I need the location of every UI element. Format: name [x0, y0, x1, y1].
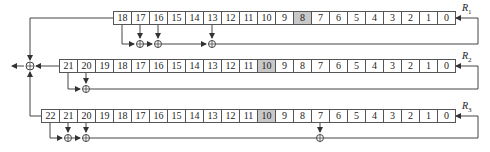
register-cell: 7 — [311, 11, 330, 25]
register-cell: 18 — [113, 11, 132, 25]
register-cell: 16 — [149, 109, 168, 123]
register-label-r1: R1 — [462, 2, 472, 16]
register-cell: 4 — [365, 59, 384, 73]
register-cell: 21 — [59, 59, 78, 73]
register-cell: 5 — [347, 109, 366, 123]
register-cell: 6 — [329, 59, 348, 73]
register-cell: 18 — [113, 109, 132, 123]
register-cell: 18 — [113, 59, 132, 73]
register-cell: 15 — [167, 109, 186, 123]
register-cell: 13 — [203, 11, 222, 25]
register-cell: 3 — [383, 109, 402, 123]
register-cell: 2 — [401, 59, 420, 73]
register-cell: 14 — [185, 11, 204, 25]
register-label-r2: R2 — [462, 50, 472, 64]
register-cell: 10 — [257, 109, 276, 123]
register-cell: 13 — [203, 59, 222, 73]
lfsr-diagram: R1 R2 R3 1817161514131211109876543210212… — [0, 0, 490, 152]
register-cell: 14 — [185, 59, 204, 73]
register-cell: 21 — [59, 109, 78, 123]
register-cell: 20 — [77, 59, 96, 73]
register-cell: 19 — [95, 59, 114, 73]
register-cell: 11 — [239, 11, 258, 25]
register-cell: 16 — [149, 11, 168, 25]
register-cell: 17 — [131, 11, 150, 25]
register-cell: 0 — [437, 109, 456, 123]
register-cell: 6 — [329, 109, 348, 123]
register-cell: 9 — [275, 59, 294, 73]
register-cell: 22 — [41, 109, 60, 123]
register-cell: 6 — [329, 11, 348, 25]
register-cell: 4 — [365, 11, 384, 25]
register-cell: 12 — [221, 11, 240, 25]
register-cell: 2 — [401, 109, 420, 123]
register-cell: 3 — [383, 11, 402, 25]
xor-gates — [26, 41, 324, 142]
register-cell: 4 — [365, 109, 384, 123]
register-cell: 11 — [239, 59, 258, 73]
register-cell: 3 — [383, 59, 402, 73]
register-cell: 7 — [311, 109, 330, 123]
register-cell: 15 — [167, 11, 186, 25]
register-cell: 5 — [347, 59, 366, 73]
register-cell: 0 — [437, 11, 456, 25]
register-cell: 2 — [401, 11, 420, 25]
register-cell: 15 — [167, 59, 186, 73]
register-cell: 1 — [419, 11, 438, 25]
register-cell: 8 — [293, 11, 312, 25]
register-cell: 9 — [275, 11, 294, 25]
register-cell: 10 — [257, 59, 276, 73]
register-cell: 1 — [419, 109, 438, 123]
register-cell: 19 — [95, 109, 114, 123]
register-cell: 11 — [239, 109, 258, 123]
register-label-r3: R3 — [462, 100, 472, 114]
register-cell: 9 — [275, 109, 294, 123]
register-cell: 17 — [131, 109, 150, 123]
register-cell: 14 — [185, 109, 204, 123]
register-cell: 1 — [419, 59, 438, 73]
register-cell: 10 — [257, 11, 276, 25]
register-cell: 13 — [203, 109, 222, 123]
register-cell: 12 — [221, 109, 240, 123]
register-cell: 12 — [221, 59, 240, 73]
register-cell: 8 — [293, 59, 312, 73]
register-cell: 16 — [149, 59, 168, 73]
register-cell: 0 — [437, 59, 456, 73]
register-cell: 5 — [347, 11, 366, 25]
register-cell: 20 — [77, 109, 96, 123]
register-cell: 17 — [131, 59, 150, 73]
register-cell: 8 — [293, 109, 312, 123]
register-cell: 7 — [311, 59, 330, 73]
